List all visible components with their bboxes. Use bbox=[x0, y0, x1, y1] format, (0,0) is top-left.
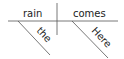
modifier-word-here: Here bbox=[90, 25, 114, 50]
subject-word: rain bbox=[23, 8, 42, 19]
verb-word: comes bbox=[73, 8, 106, 19]
sentence-diagram: rain comes the Here bbox=[0, 0, 124, 59]
